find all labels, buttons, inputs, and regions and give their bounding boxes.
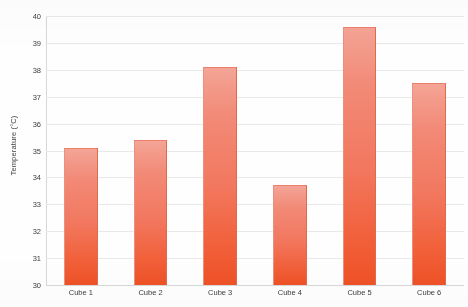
y-tick-label-35: 35: [12, 146, 46, 155]
y-tick-label-36: 36: [12, 119, 46, 128]
bar-cube-5[interactable]: [343, 27, 376, 285]
y-tick-label-34: 34: [12, 173, 46, 182]
x-axis-tick-labels: Cube 1Cube 2Cube 3Cube 4Cube 5Cube 6: [46, 288, 464, 297]
bar-cube-2[interactable]: [134, 140, 167, 285]
y-tick-label-37: 37: [12, 92, 46, 101]
bar-series: [46, 16, 464, 285]
bar-cube-6[interactable]: [412, 83, 445, 285]
bar-cube-4[interactable]: [273, 185, 306, 285]
plot-area: [46, 16, 464, 285]
x-tick-label-3: Cube 3: [185, 288, 255, 297]
bar-cube-1[interactable]: [64, 148, 97, 285]
x-tick-label-1: Cube 1: [46, 288, 116, 297]
gridline-30: [46, 285, 464, 286]
bar-slot: [46, 16, 116, 285]
x-tick-label-5: Cube 5: [325, 288, 395, 297]
x-tick-label-4: Cube 4: [255, 288, 325, 297]
bar-slot: [185, 16, 255, 285]
y-tick-label-31: 31: [12, 254, 46, 263]
y-axis-tick-labels: 4039383736353433323130: [0, 16, 46, 285]
y-tick-label-40: 40: [12, 12, 46, 21]
x-tick-label-6: Cube 6: [394, 288, 464, 297]
bar-slot: [255, 16, 325, 285]
y-tick-label-32: 32: [12, 227, 46, 236]
bar-cube-3[interactable]: [203, 67, 236, 285]
bar-chart: Temperature (°C) 4039383736353433323130 …: [0, 0, 468, 307]
y-tick-label-33: 33: [12, 200, 46, 209]
bar-slot: [325, 16, 395, 285]
bar-slot: [116, 16, 186, 285]
bar-slot: [394, 16, 464, 285]
x-tick-label-2: Cube 2: [116, 288, 186, 297]
y-tick-label-38: 38: [12, 65, 46, 74]
y-tick-label-30: 30: [12, 281, 46, 290]
y-tick-label-39: 39: [12, 38, 46, 47]
